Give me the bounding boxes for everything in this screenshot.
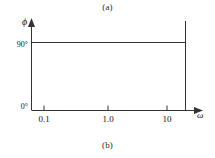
x-tick-label-0: 0.1 (30, 114, 58, 124)
x-axis-label: ω (197, 110, 203, 120)
x-tick-label-2: 10 (153, 114, 181, 124)
x-tick-label-1: 1.0 (94, 114, 122, 124)
y-tick-label-90: 90° (2, 40, 28, 49)
phase-plot: ϕ ω 90° 0° 0.1 1.0 10 (0, 14, 215, 138)
figure-caption-top: (a) (0, 2, 215, 12)
y-tick-label-0: 0° (2, 102, 28, 111)
y-axis-arrow-icon (28, 18, 35, 27)
y-axis-label: ϕ (22, 16, 27, 27)
figure-caption-bottom: (b) (0, 140, 215, 150)
bode-phase-figure: (a) ϕ ω 90° 0° 0.1 1.0 10 (b) (0, 0, 215, 158)
